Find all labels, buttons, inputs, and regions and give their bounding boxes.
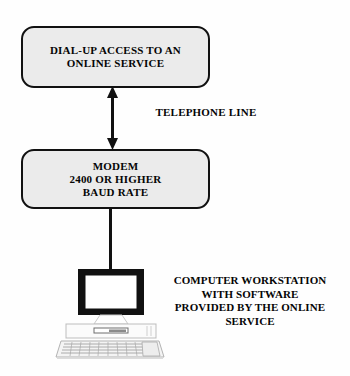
serial-cable-line xyxy=(109,208,112,270)
node-online-service-label: DIAL-UP ACCESS TO AN ONLINE SERVICE xyxy=(44,44,187,70)
telephone-line-arrow xyxy=(106,86,119,150)
dialup-connection-diagram: DIAL-UP ACCESS TO AN ONLINE SERVICE TELE… xyxy=(0,0,350,376)
double-arrow-icon xyxy=(106,86,119,150)
workstation-caption: COMPUTER WORKSTATION WITH SOFTWARE PROVI… xyxy=(158,274,342,328)
node-modem: MODEM 2400 OR HIGHER BAUD RATE xyxy=(21,149,210,209)
telephone-line-label: TELEPHONE LINE xyxy=(136,106,276,118)
desktop-computer-icon xyxy=(54,266,166,362)
node-modem-label: MODEM 2400 OR HIGHER BAUD RATE xyxy=(63,160,167,199)
desktop-computer-illustration xyxy=(54,266,166,362)
node-online-service: DIAL-UP ACCESS TO AN ONLINE SERVICE xyxy=(21,26,210,88)
